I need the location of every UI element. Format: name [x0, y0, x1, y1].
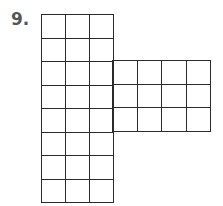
grid-cell — [90, 62, 114, 86]
grid-cell — [66, 15, 90, 39]
grid-cell — [90, 15, 114, 39]
problem-number: 9. — [11, 9, 29, 29]
grid-cell — [90, 85, 114, 109]
grid-cell — [162, 84, 187, 108]
grid-cell — [162, 108, 187, 132]
grid-cell — [66, 85, 90, 109]
main-grid-row — [42, 179, 114, 203]
main-grid-strip — [41, 14, 114, 203]
grid-cell — [162, 61, 187, 85]
grid-cell — [66, 132, 90, 156]
grid-cell — [42, 132, 66, 156]
main-grid-row — [42, 15, 114, 39]
arm-grid-row — [113, 108, 211, 132]
right-arm-grid — [112, 60, 211, 132]
main-grid-row — [42, 156, 114, 180]
grid-cell — [137, 84, 162, 108]
grid-cell — [90, 156, 114, 180]
grid-cell — [113, 84, 138, 108]
grid-cell — [66, 109, 90, 133]
grid-cell — [66, 156, 90, 180]
grid-cell — [42, 38, 66, 62]
arm-grid-row — [113, 61, 211, 85]
grid-cell — [42, 156, 66, 180]
grid-cell — [66, 62, 90, 86]
grid-cell — [66, 179, 90, 203]
grid-cell — [90, 109, 114, 133]
grid-cell — [42, 15, 66, 39]
grid-cell — [90, 179, 114, 203]
grid-cell — [66, 38, 90, 62]
grid-cell — [137, 108, 162, 132]
grid-cell — [42, 179, 66, 203]
grid-cell — [186, 84, 211, 108]
grid-cell — [186, 61, 211, 85]
grid-cell — [42, 109, 66, 133]
grid-cell — [42, 62, 66, 86]
grid-cell — [90, 38, 114, 62]
grid-cell — [42, 85, 66, 109]
grid-cell — [113, 61, 138, 85]
main-grid-row — [42, 109, 114, 133]
grid-cell — [113, 108, 138, 132]
grid-cell — [186, 108, 211, 132]
main-grid-row — [42, 38, 114, 62]
main-grid-row — [42, 85, 114, 109]
main-grid-row — [42, 62, 114, 86]
grid-cell — [137, 61, 162, 85]
main-grid-row — [42, 132, 114, 156]
grid-cell — [90, 132, 114, 156]
arm-grid-row — [113, 84, 211, 108]
